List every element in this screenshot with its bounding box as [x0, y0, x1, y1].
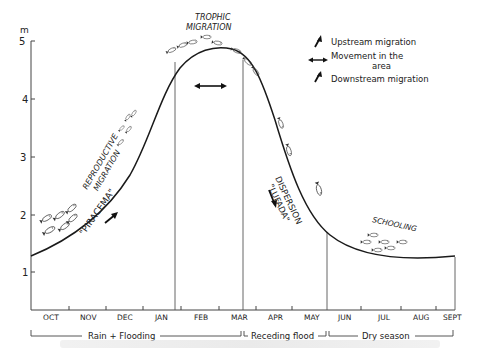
y-axis-unit: m [20, 25, 29, 35]
schooling-fish-group [361, 233, 408, 252]
y-tick-2: 2 [20, 210, 26, 221]
month-aug: AUG [413, 313, 430, 322]
dispersion-label: DISPERSION "LUFADA" [264, 175, 304, 230]
month-jan: JAN [154, 313, 168, 322]
month-apr: APR [268, 313, 283, 322]
y-tick-1: 1 [22, 267, 28, 278]
legend-movement-label-2: area [372, 61, 391, 71]
y-tick-4: 4 [22, 94, 28, 105]
legend-downstream-icon [315, 71, 322, 82]
schooling-label: SCHOOLING [372, 215, 418, 233]
month-nov: NOV [80, 313, 97, 322]
piracema-label: "PIRACEMA" [77, 187, 116, 237]
month-jun: JUN [337, 313, 351, 322]
trophic-label-2: MIGRATION [186, 23, 231, 32]
month-jul: JUL [377, 313, 391, 322]
month-feb: FEB [194, 313, 208, 322]
phase-dividers [175, 60, 455, 310]
legend: Upstream migration Movement in the area … [308, 35, 429, 84]
upstream-arrow-icon [105, 212, 118, 223]
faded-caption [60, 340, 440, 348]
svg-text:SCHOOLING: SCHOOLING [372, 215, 418, 233]
month-mar: MAR [231, 313, 248, 322]
legend-upstream-label: Upstream migration [331, 37, 416, 47]
y-tick-5: 5 [19, 36, 25, 47]
trophic-label-1: TROPHIC [195, 13, 231, 22]
svg-text:"PIRACEMA": "PIRACEMA" [77, 187, 116, 237]
y-tick-3: 3 [20, 152, 26, 163]
legend-movement-label: Movement in the [331, 51, 403, 61]
month-dec: DEC [117, 313, 133, 322]
migration-diagram: m 5 4 3 2 1 OCT NOV DEC JAN FEB MAR APR … [0, 0, 478, 360]
trophic-fish-group [166, 35, 260, 76]
x-axis: OCT NOV DEC JAN FEB MAR APR MAY JUN JUL … [31, 306, 462, 322]
month-sept: SEPT [443, 313, 462, 322]
movement-arrow-icon [194, 83, 227, 89]
legend-upstream-icon [315, 35, 322, 47]
legend-downstream-label: Downstream migration [331, 74, 429, 84]
legend-movement-icon [308, 58, 328, 63]
month-oct: OCT [43, 313, 59, 322]
month-may: MAY [304, 313, 320, 322]
y-axis: m 5 4 3 2 1 [19, 25, 35, 310]
